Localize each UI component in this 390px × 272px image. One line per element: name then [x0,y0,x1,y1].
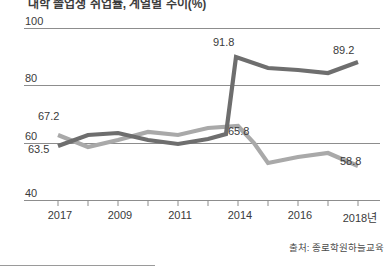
x-tick-label-2018: 2018년 [336,209,384,225]
data-label-67-2: 67.2 [38,110,59,122]
data-label-63-5: 63.5 [28,143,49,155]
data-label-65-8: 65.8 [228,125,249,137]
data-label-91-8: 91.8 [213,36,234,48]
bottom-divider [0,265,155,266]
x-tick-label-2009: 2009 [100,209,140,221]
source-note: 출처: 종로학원하늘교육 [289,240,384,254]
data-label-89-2: 89.2 [333,44,354,56]
series-svg [0,0,390,272]
chart-container: 대학 졸업생 취업률, 계열별 추이(%) 100 80 60 40 [0,0,390,272]
x-tick-label-2011: 2011 [160,209,200,221]
data-label-58-8: 58.8 [340,155,361,167]
x-axis-ticks [58,200,358,206]
x-tick-label-2017a: 2017 [40,209,80,221]
series-line-dark [58,57,358,146]
x-tick-label-2016: 2016 [280,209,320,221]
plot-area: 100 80 60 40 67.2 63.5 91 [0,0,390,272]
x-tick-label-2014: 2014 [220,209,260,221]
